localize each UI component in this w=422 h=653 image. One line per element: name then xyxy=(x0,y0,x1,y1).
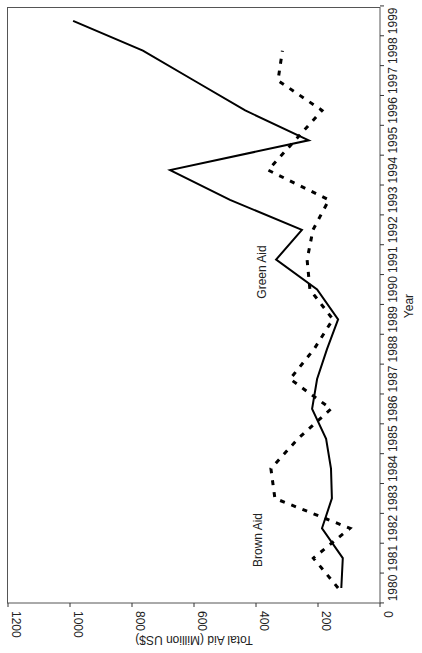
value-tick-label: 0 xyxy=(381,611,395,618)
year-tick-label: 1981 xyxy=(386,544,400,571)
year-tick-label: 1989 xyxy=(386,306,400,333)
year-tick-label: 1982 xyxy=(386,515,400,542)
year-tick-label: 1984 xyxy=(386,455,400,482)
aid-line-chart: 020040060080010001200 198019811982198319… xyxy=(0,0,422,653)
value-tick-label: 1000 xyxy=(71,611,85,638)
value-tick-label: 1200 xyxy=(9,611,23,638)
value-tick-label: 600 xyxy=(195,611,209,631)
value-tick-label: 800 xyxy=(133,611,147,631)
year-tick-label: 1990 xyxy=(386,276,400,303)
year-axis-title: Year xyxy=(402,294,416,318)
year-tick-label: 1994 xyxy=(386,156,400,183)
year-tick-label: 1997 xyxy=(386,67,400,94)
year-tick-label: 1986 xyxy=(386,395,400,422)
value-axis-title: Total Aid (Million US$) xyxy=(135,633,252,647)
green-aid-line xyxy=(73,21,343,588)
green-aid-label: Green Aid xyxy=(255,245,269,298)
year-tick-label: 1992 xyxy=(386,216,400,243)
year-tick-label: 1995 xyxy=(386,127,400,154)
series-layer xyxy=(73,21,350,588)
year-tick-label: 1996 xyxy=(386,97,400,124)
year-tick-label: 1983 xyxy=(386,485,400,512)
year-tick-label: 1980 xyxy=(386,574,400,601)
year-tick-label: 1993 xyxy=(386,186,400,213)
year-tick-label: 1998 xyxy=(386,37,400,64)
year-tick-label: 1991 xyxy=(386,246,400,273)
value-axis: 020040060080010001200 xyxy=(8,603,395,638)
year-tick-label: 1985 xyxy=(386,425,400,452)
brown-aid-label: Brown Aid xyxy=(251,513,265,567)
year-axis: 1980198119821983198419851986198719881989… xyxy=(380,6,400,603)
year-tick-label: 1988 xyxy=(386,336,400,363)
year-tick-label: 1987 xyxy=(386,365,400,392)
value-tick-label: 400 xyxy=(257,611,271,631)
value-tick-label: 200 xyxy=(319,611,333,631)
year-tick-label: 1999 xyxy=(386,7,400,34)
plot-frame xyxy=(8,8,381,604)
